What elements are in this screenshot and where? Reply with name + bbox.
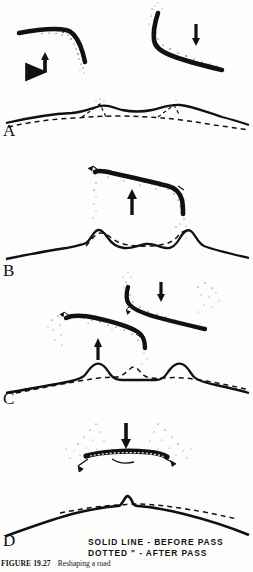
stage-label-c: C xyxy=(3,390,14,407)
stage-label-a: A xyxy=(3,122,15,139)
after-pass-line-a xyxy=(8,116,249,130)
figure-caption-text: Reshaping a road xyxy=(58,559,111,568)
stage-d-profile xyxy=(6,496,249,536)
legend-solid-line: SOLID LINE - BEFORE PASS xyxy=(88,537,253,548)
stage-label-b: B xyxy=(3,262,14,279)
legend: SOLID LINE - BEFORE PASS DOTTED " - AFTE… xyxy=(88,537,253,558)
stage-a-profile xyxy=(6,99,249,131)
stage-d-blade xyxy=(66,423,192,467)
stage-label-d: D xyxy=(3,532,15,549)
legend-dotted-line: DOTTED " - AFTER PASS xyxy=(88,548,253,559)
figure-number: FIGURE 19.27 xyxy=(1,559,51,568)
figure-caption: FIGURE 19.27Reshaping a road xyxy=(1,559,253,568)
stage-c-blade-upper xyxy=(123,272,220,329)
before-pass-line-d xyxy=(6,496,249,536)
stage-a-blade-left xyxy=(19,29,85,73)
before-pass-line-c xyxy=(6,363,249,393)
stage-a-blade-right xyxy=(149,3,222,70)
figure-sheet: A B C D SOLID LINE - BEFORE PASS DOTTED … xyxy=(0,0,253,572)
stage-c-blade-lower xyxy=(48,312,148,364)
stage-b-blade xyxy=(93,166,187,238)
stage-c-profile xyxy=(6,363,249,393)
before-pass-line-a xyxy=(6,105,249,125)
figure-artwork xyxy=(0,0,253,572)
stage-b-profile xyxy=(6,224,249,259)
